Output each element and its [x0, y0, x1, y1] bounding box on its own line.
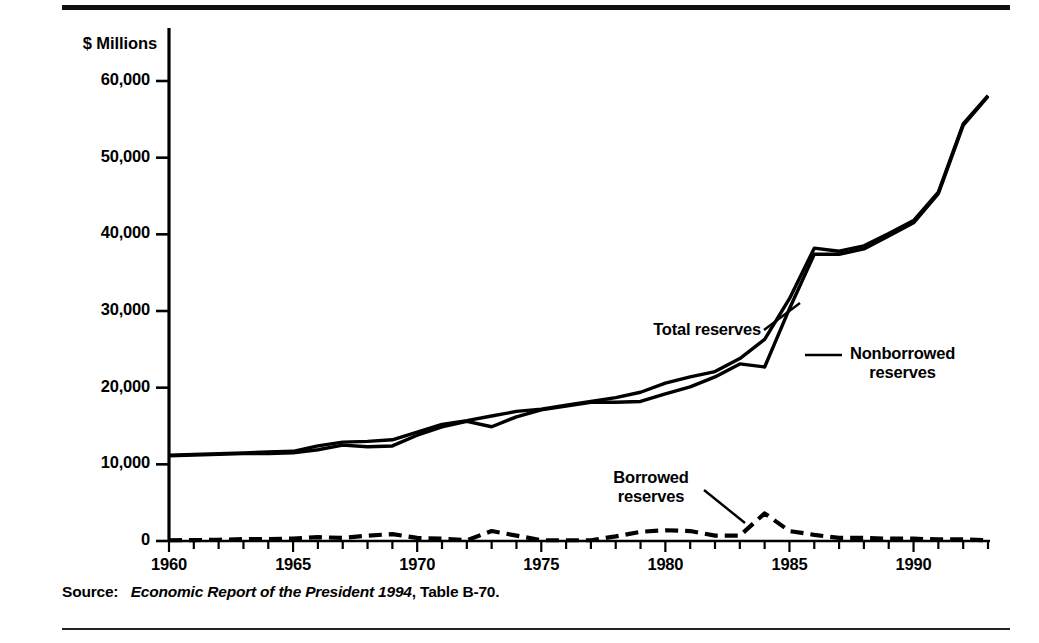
x-tick-label: 1990	[879, 555, 949, 574]
x-tick-label: 1980	[630, 555, 700, 574]
y-axis-units-label: $ Millions	[62, 34, 157, 53]
annotation-nonborrowed-reserves: Nonborrowed reserves	[850, 344, 955, 383]
y-tick-label: 20,000	[42, 377, 150, 396]
y-tick-label: 60,000	[42, 70, 150, 89]
leader-borrowed-reserves	[704, 490, 745, 523]
y-axis-ticks	[156, 81, 169, 541]
y-tick-label: 0	[42, 530, 150, 549]
y-tick-label: 30,000	[42, 300, 150, 319]
annotation-nonborrowed-line1: Nonborrowed	[850, 344, 955, 363]
annotation-total-reserves: Total reserves	[546, 320, 761, 339]
source-suffix: , Table B-70.	[412, 583, 500, 600]
x-tick-label: 1965	[258, 555, 328, 574]
source-prefix: Source:	[62, 583, 118, 600]
figure-container: $ Millions 010,00020,00030,00040,00050,0…	[0, 0, 1039, 643]
x-tick-label: 1975	[506, 555, 576, 574]
annotation-nonborrowed-line2: reserves	[850, 363, 955, 382]
annotation-borrowed-line2: reserves	[592, 487, 710, 506]
annotation-borrowed-line1: Borrowed	[592, 468, 710, 487]
source-title: Economic Report of the President 1994	[131, 583, 412, 600]
series-line-total-reserves	[169, 96, 988, 456]
chart-plot-area	[0, 0, 1039, 643]
x-axis-minor-ticks	[169, 541, 988, 552]
data-series-layer	[169, 96, 988, 541]
series-line-borrowed-reserves	[169, 513, 988, 540]
x-tick-label: 1985	[754, 555, 824, 574]
x-tick-label: 1970	[382, 555, 452, 574]
y-tick-label: 40,000	[42, 223, 150, 242]
y-tick-label: 10,000	[42, 453, 150, 472]
y-tick-label: 50,000	[42, 147, 150, 166]
x-tick-label: 1960	[134, 555, 204, 574]
annotation-borrowed-reserves: Borrowed reserves	[592, 468, 710, 507]
source-note: Source: Economic Report of the President…	[62, 583, 499, 601]
axis-lines	[169, 28, 990, 541]
bottom-rule	[62, 628, 1010, 630]
